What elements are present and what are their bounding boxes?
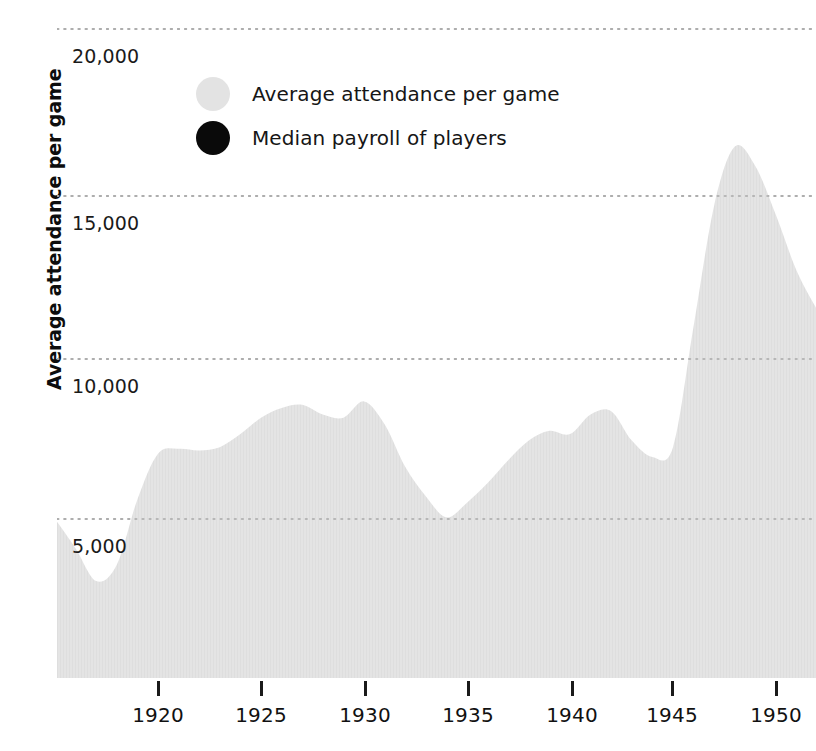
attendance-area-chart: Average attendance per game 20,00015,000…: [0, 0, 816, 751]
chart-legend: Average attendance per game Median payro…: [196, 72, 616, 160]
x-tick-label-1935: 1935: [442, 703, 494, 727]
legend-item-payroll[interactable]: Median payroll of players: [196, 116, 616, 160]
x-tick-mark-1945: [671, 681, 674, 696]
x-axis: 1920192519301935194019451950: [0, 678, 816, 751]
x-tick-label-1940: 1940: [546, 703, 598, 727]
legend-label-payroll: Median payroll of players: [252, 126, 507, 150]
x-tick-mark-1940: [571, 681, 574, 696]
legend-label-attendance: Average attendance per game: [252, 82, 560, 106]
area-series-attendance: [57, 145, 816, 678]
y-tick-label-5000: 5,000: [72, 535, 127, 557]
circle-swatch-icon: [196, 77, 230, 111]
y-tick-label-20000: 20,000: [72, 45, 139, 67]
x-tick-label-1920: 1920: [132, 703, 184, 727]
x-tick-mark-1920: [157, 681, 160, 696]
legend-item-attendance[interactable]: Average attendance per game: [196, 72, 616, 116]
x-tick-mark-1930: [364, 681, 367, 696]
x-tick-label-1950: 1950: [750, 703, 802, 727]
y-tick-label-10000: 10,000: [72, 375, 139, 397]
x-tick-label-1930: 1930: [339, 703, 391, 727]
x-tick-mark-1925: [260, 681, 263, 696]
x-tick-label-1945: 1945: [646, 703, 698, 727]
x-tick-mark-1950: [775, 681, 778, 696]
x-tick-label-1925: 1925: [235, 703, 287, 727]
y-tick-label-15000: 15,000: [72, 212, 139, 234]
circle-swatch-icon: [196, 121, 230, 155]
x-tick-mark-1935: [467, 681, 470, 696]
